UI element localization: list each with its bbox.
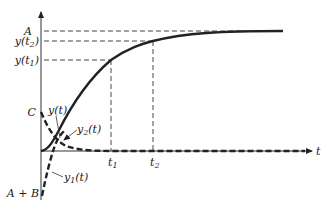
label-y-t2: y(t2)	[14, 35, 39, 49]
label-t: t	[316, 145, 321, 158]
leader-y2	[64, 130, 77, 140]
label-t2: t2	[150, 156, 160, 170]
label-y-t1: y(t1)	[14, 54, 39, 68]
label-y1t: y1(t)	[63, 171, 88, 185]
label-t1: t1	[108, 156, 118, 170]
label-A-plus-B: A + B	[6, 187, 39, 200]
leader-y1	[52, 172, 63, 177]
label-yt: y(t)	[47, 104, 67, 117]
label-C: C	[28, 106, 37, 119]
response-diagram: A y(t2) y(t1) C A + B t t1 t2 y(t) y2(t)…	[0, 0, 329, 213]
label-y2t: y2(t)	[76, 123, 101, 137]
